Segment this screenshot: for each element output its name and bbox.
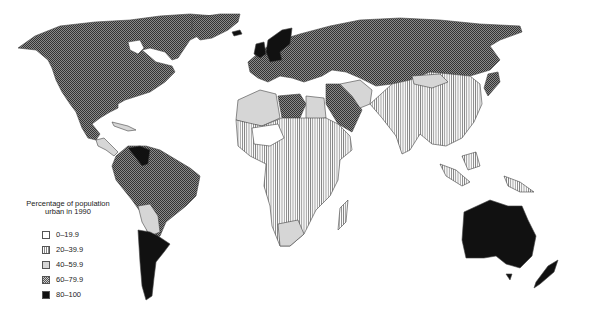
region-iceland — [232, 30, 242, 36]
map-legend: Percentage of population urban in 1990 0… — [18, 200, 118, 302]
legend-item-40-59: 40–59.9 — [42, 257, 118, 272]
region-southern-cone — [138, 230, 170, 300]
region-se-asia-islands — [440, 152, 534, 192]
legend-item-0-19: 0–19.9 — [42, 227, 118, 242]
region-europe-ussr — [248, 18, 522, 86]
black-swatch-icon — [42, 291, 50, 299]
legend-title: Percentage of population urban in 1990 — [18, 200, 118, 216]
region-australia — [462, 200, 536, 268]
region-caribbean — [112, 122, 136, 131]
region-central-america — [96, 138, 118, 156]
legend-item-60-79: 60–79.9 — [42, 272, 118, 287]
legend-item-80-100: 80–100 — [42, 287, 118, 302]
legend-label: 20–39.9 — [56, 245, 83, 254]
legend-label: 60–79.9 — [56, 275, 83, 284]
legend-title-line2: urban in 1990 — [18, 208, 118, 216]
legend-label: 0–19.9 — [56, 230, 79, 239]
region-japan — [484, 72, 500, 96]
light-grey-swatch-icon — [42, 261, 50, 269]
legend-label: 40–59.9 — [56, 260, 83, 269]
legend-items: 0–19.9 20–39.9 40–59.9 60–79.9 80–100 — [42, 227, 118, 302]
hatch-swatch-icon — [42, 246, 50, 254]
legend-item-20-39: 20–39.9 — [42, 242, 118, 257]
legend-label: 80–100 — [56, 290, 81, 299]
region-greenland — [192, 14, 240, 40]
white-swatch-icon — [42, 231, 50, 239]
crosshatch-swatch-icon — [42, 276, 50, 284]
region-madagascar — [338, 200, 348, 230]
region-tasmania — [506, 274, 512, 280]
region-new-zealand — [534, 260, 558, 288]
